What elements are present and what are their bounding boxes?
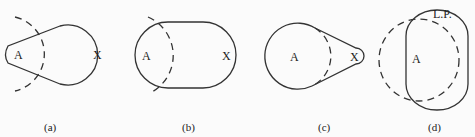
label-x: X <box>222 49 231 63</box>
label-x: X <box>350 50 359 64</box>
label-a: A <box>142 49 151 63</box>
label-x: X <box>93 48 102 62</box>
caption-a: (a) <box>44 121 57 134</box>
dashed-circle-arc <box>148 17 173 92</box>
caption-d: (d) <box>428 121 441 134</box>
label-lp: L.P. <box>433 7 452 21</box>
caption-b: (b) <box>182 121 195 134</box>
caption-c: (c) <box>318 121 331 134</box>
panel-a: A X (a) <box>6 17 103 134</box>
label-a: A <box>412 52 421 66</box>
panel-d: L.P. A (d) <box>379 7 468 134</box>
panel-b: A X (b) <box>135 17 236 134</box>
diagram-canvas: A X (a) A X (b) A X (c) L.P. A (d) <box>0 0 475 137</box>
label-a: A <box>290 50 299 64</box>
label-a: A <box>14 48 23 62</box>
panel-c: A X (c) <box>265 23 364 134</box>
diagram-figure: A X (a) A X (b) A X (c) L.P. A (d) <box>0 0 475 137</box>
